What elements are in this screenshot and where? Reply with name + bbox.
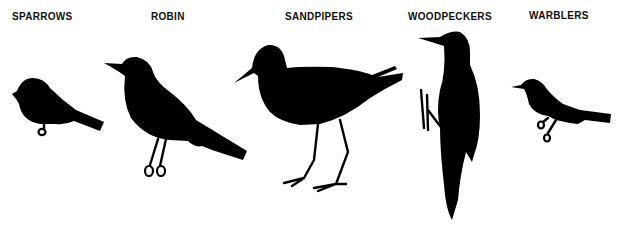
warbler-silhouette <box>511 79 611 142</box>
sandpiper-silhouette <box>234 45 403 191</box>
robin-silhouette <box>104 57 247 176</box>
silhouettes <box>0 0 622 233</box>
woodpecker-silhouette <box>418 32 480 220</box>
bird-silhouettes-figure: SPARROWS ROBIN SANDPIPERS WOODPECKERS WA… <box>0 0 622 233</box>
sparrow-silhouette <box>12 78 104 135</box>
